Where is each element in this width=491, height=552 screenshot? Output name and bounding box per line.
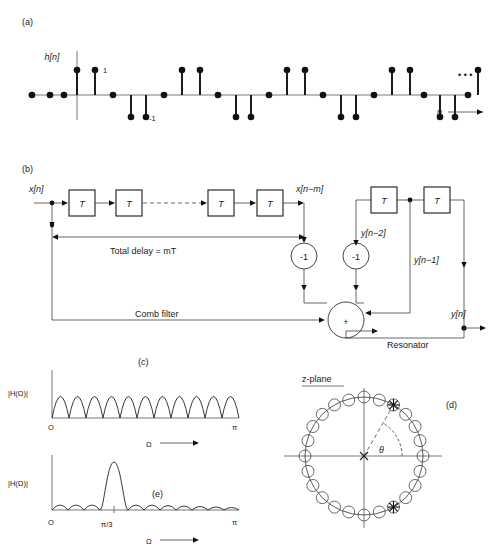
gain-block-right-label: -1 bbox=[352, 252, 360, 262]
panel-e-y-axis-label: |H(Ω)| bbox=[8, 479, 28, 488]
panel-a-label: (a) bbox=[22, 17, 33, 27]
panel-c-x-axis-title: Ω bbox=[146, 440, 152, 449]
panel-d: (d) z-plane bbox=[284, 374, 457, 528]
panel-b-input-label: x[n] bbox=[28, 184, 44, 194]
panel-e-resonator-curve bbox=[52, 462, 239, 510]
arrow-gain-left-down bbox=[301, 285, 306, 291]
panel-a-pos-one-label: 1 bbox=[103, 66, 107, 75]
arrow-to-delay-1 bbox=[62, 200, 68, 205]
arrow-d4-out bbox=[298, 200, 304, 205]
gain-block-left-label: -1 bbox=[300, 252, 308, 262]
panel-a-neg-one-label: -1 bbox=[149, 114, 156, 123]
panel-c-y-axis-label: |H(Ω)| bbox=[8, 389, 28, 398]
panel-a-x-axis-label: n bbox=[437, 107, 442, 117]
panel-d-label: (d) bbox=[446, 400, 457, 410]
summing-junction-label: + bbox=[343, 317, 348, 327]
panel-e-x-axis-title: Ω bbox=[146, 537, 152, 546]
arrow-to-delay-3 bbox=[201, 200, 207, 205]
panel-a-x-arrow bbox=[448, 109, 483, 114]
panel-a-y-axis-label: h[n] bbox=[44, 52, 60, 62]
panel-a-stems bbox=[29, 67, 482, 121]
arrow-to-delay-2 bbox=[109, 200, 115, 205]
panel-e-label: (e) bbox=[152, 489, 163, 499]
panel-b-label: (b) bbox=[22, 164, 33, 174]
panel-c-label: (c) bbox=[138, 357, 149, 367]
panel-b-delayed-input-label: x[n−m] bbox=[295, 184, 324, 194]
panel-e-origin-label: O bbox=[48, 518, 54, 527]
comb-filter-label: Comb filter bbox=[135, 309, 179, 319]
output-label: y[n] bbox=[450, 309, 466, 319]
arrow-to-delay-4 bbox=[250, 200, 256, 205]
y-n-minus-1-label: y[n−1] bbox=[413, 255, 439, 265]
panel-c-comb-curve bbox=[52, 397, 239, 419]
theta-label: θ bbox=[379, 445, 384, 455]
total-delay-annotation bbox=[52, 234, 305, 239]
panel-a: (a) h[n] 1 -1 bbox=[22, 17, 483, 123]
panel-b: (b) x[n] T T T T x[n−m] -1 bbox=[22, 164, 486, 350]
comb-feedback-path bbox=[49, 203, 325, 323]
panel-c-origin-label: O bbox=[48, 423, 54, 432]
arrow-gain-right-down bbox=[353, 285, 358, 291]
panel-d-title: z-plane bbox=[302, 374, 332, 384]
panel-e-x-arrow bbox=[160, 537, 199, 542]
resonator-label: Resonator bbox=[387, 340, 429, 350]
y-n-minus-2-label: y[n−2] bbox=[360, 228, 386, 238]
panel-c: (c) |H(Ω)| O π Ω bbox=[8, 357, 239, 449]
panel-e-x-max-label: π bbox=[232, 518, 237, 527]
panel-a-ellipsis: • • • bbox=[458, 70, 472, 80]
panel-c-x-max-label: π bbox=[232, 423, 237, 432]
figure-canvas: (a) h[n] 1 -1 bbox=[0, 0, 491, 552]
y-n-minus-1-path bbox=[365, 200, 410, 316]
theta-arc bbox=[383, 423, 402, 456]
panel-e: (e) |H(Ω)| O π/3 π Ω bbox=[8, 455, 239, 546]
panel-c-x-arrow bbox=[160, 440, 199, 445]
panel-e-peak-label: π/3 bbox=[101, 520, 112, 529]
total-delay-label: Total delay = mT bbox=[110, 246, 177, 256]
pole-lower bbox=[388, 501, 400, 513]
